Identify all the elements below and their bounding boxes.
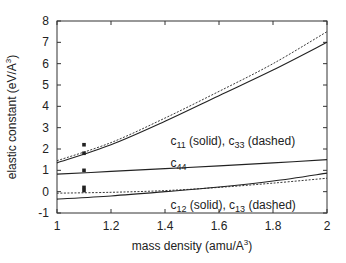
data-series [57, 32, 327, 199]
y-tick-label: 5 [42, 78, 49, 92]
data-point [82, 151, 86, 155]
data-point [82, 143, 86, 147]
x-tick-label: 2 [324, 219, 331, 233]
y-tick-label: 2 [42, 142, 49, 156]
series-c44 [57, 160, 327, 175]
plot-frame [57, 21, 327, 213]
y-tick-label: 8 [42, 14, 49, 28]
y-axis-title: elastic constant (eV/A3) [4, 55, 19, 180]
x-axis-title: mass density (amu/A3) [132, 238, 253, 253]
data-point [82, 189, 86, 193]
y-tick-label: -1 [38, 206, 49, 220]
y-tick-label: 7 [42, 35, 49, 49]
series-annotation: c44 [170, 156, 186, 172]
x-tick-label: 1 [54, 219, 61, 233]
data-points [82, 143, 86, 192]
chart: 11.21.41.61.82-1012345678 c11 (solid), c… [0, 0, 346, 263]
x-tick-label: 1.6 [211, 219, 228, 233]
y-tick-label: 0 [42, 185, 49, 199]
data-point [82, 169, 86, 173]
series-annotation: c12 (solid), c13 (dashed) [170, 198, 295, 214]
y-tick-label: 6 [42, 57, 49, 71]
series-c12 [57, 173, 327, 199]
x-tick-label: 1.4 [157, 219, 174, 233]
annotations: c11 (solid), c33 (dashed)c44c12 (solid),… [170, 134, 295, 214]
y-tick-label: 1 [42, 163, 49, 177]
y-tick-label: 3 [42, 121, 49, 135]
series-c13 [57, 178, 327, 193]
data-point [82, 186, 86, 190]
series-annotation: c11 (solid), c33 (dashed) [170, 134, 295, 150]
y-tick-label: 4 [42, 99, 49, 113]
x-tick-label: 1.2 [103, 219, 120, 233]
x-tick-label: 1.8 [265, 219, 282, 233]
plot-border [57, 21, 327, 213]
